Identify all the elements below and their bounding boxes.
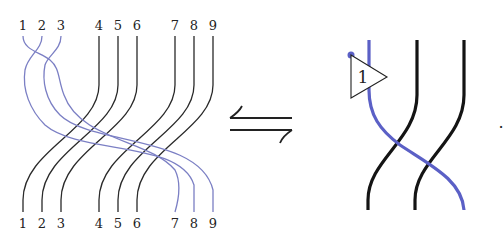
top-label-1: 1 — [19, 18, 27, 33]
left-braid-black-strands — [23, 36, 213, 212]
equivalence-harpoons-icon — [230, 106, 292, 143]
blue-strand-3 — [44, 36, 213, 212]
bottom-label-1: 1 — [19, 216, 27, 231]
black-strand-8 — [118, 36, 194, 212]
bottom-label-3: 3 — [57, 216, 65, 231]
top-label-7: 7 — [171, 18, 179, 33]
top-label-9: 9 — [209, 18, 217, 33]
right-black-strand-2 — [415, 40, 464, 210]
left-braid-bottom-labels: 1 2 3 4 5 6 7 8 9 — [19, 216, 217, 231]
right-black-strand-1 — [368, 40, 417, 210]
bottom-label-9: 9 — [209, 216, 217, 231]
bottom-label-8: 8 — [190, 216, 198, 231]
trailing-period: . — [498, 113, 503, 132]
bottom-label-4: 4 — [95, 216, 103, 231]
top-label-2: 2 — [38, 18, 46, 33]
bottom-label-2: 2 — [38, 216, 46, 231]
top-label-8: 8 — [190, 18, 198, 33]
bottom-label-6: 6 — [133, 216, 141, 231]
top-label-5: 5 — [114, 18, 122, 33]
braid-equivalence-diagram: 1 2 3 4 5 6 7 8 9 1 2 3 4 5 6 7 8 9 — [0, 0, 504, 234]
right-braid: 1 . — [348, 40, 504, 210]
triangle-label: 1 — [358, 67, 369, 87]
bottom-label-7: 7 — [171, 216, 179, 231]
top-label-3: 3 — [57, 18, 65, 33]
top-label-6: 6 — [133, 18, 141, 33]
blue-strand-2 — [24, 36, 194, 212]
left-braid-top-labels: 1 2 3 4 5 6 7 8 9 — [19, 18, 217, 33]
bottom-label-5: 5 — [114, 216, 122, 231]
top-label-4: 4 — [95, 18, 103, 33]
